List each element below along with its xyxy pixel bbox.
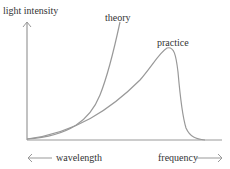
wavelength-label: wavelength xyxy=(56,152,102,164)
practice-curve xyxy=(27,48,205,140)
theory-label: theory xyxy=(105,12,131,24)
diagram-canvas xyxy=(0,0,230,169)
frequency-label: frequency xyxy=(158,152,198,164)
practice-label: practice xyxy=(157,37,189,49)
y-axis-label: light intensity xyxy=(3,5,58,17)
theory-curve xyxy=(27,22,120,139)
